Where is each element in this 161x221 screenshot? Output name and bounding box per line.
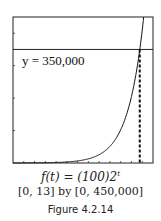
function-caption: f(t) = (100)2t: [0, 170, 161, 184]
hline-label: y = 350,000: [22, 53, 85, 69]
exponential-curve: [13, 17, 144, 163]
plot-frame: [13, 17, 153, 163]
function-exponent: t: [117, 170, 120, 178]
figure-label: Figure 4.2.14: [0, 204, 161, 215]
function-label: f(t) = (100)2: [41, 170, 117, 184]
graph-plot: [0, 0, 161, 170]
window-caption: [0, 13] by [0, 450,000]: [0, 185, 161, 198]
